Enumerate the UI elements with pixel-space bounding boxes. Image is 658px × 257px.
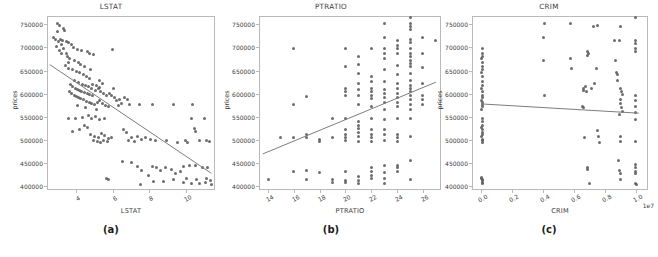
y-axis-tick-label: 450000 xyxy=(232,160,255,167)
y-axis-tick-label: 450000 xyxy=(445,160,468,167)
y-axis-tick-mark xyxy=(256,186,259,187)
x-axis-label: LSTAT xyxy=(47,207,215,215)
x-axis-tick-mark xyxy=(481,190,482,193)
x-axis-tick-mark xyxy=(320,190,321,193)
x-axis-tick-mark xyxy=(268,190,269,193)
subfigure-caption-a: (a) xyxy=(0,224,222,235)
y-axis-tick-mark xyxy=(256,24,259,25)
y-axis-tick-mark xyxy=(256,94,259,95)
panel-ptratio: PTRATIO prices PTRATIO 40000045000050000… xyxy=(222,0,440,215)
y-axis-tick-label: 400000 xyxy=(445,183,468,190)
x-axis-tick-mark xyxy=(371,190,372,193)
y-axis-tick-label: 600000 xyxy=(20,90,43,97)
x-axis-tick-label: 18 xyxy=(316,193,326,203)
y-axis-tick-mark xyxy=(469,71,472,72)
y-axis-tick-label: 500000 xyxy=(445,137,468,144)
y-axis-tick-mark xyxy=(469,186,472,187)
x-axis-tick-mark xyxy=(76,190,77,193)
y-axis-tick-label: 750000 xyxy=(232,21,255,28)
y-axis-tick-mark xyxy=(44,71,47,72)
trend-line xyxy=(472,16,648,190)
plot-area-ptratio: prices PTRATIO 4000004500005000005500006… xyxy=(259,16,441,190)
y-axis-tick-label: 650000 xyxy=(20,67,43,74)
y-axis-tick-label: 400000 xyxy=(232,183,255,190)
x-axis-tick-mark xyxy=(512,190,513,193)
subfigure-caption-c: (c) xyxy=(440,224,658,235)
x-axis-tick-mark xyxy=(345,190,346,193)
y-axis-tick-label: 550000 xyxy=(232,113,255,120)
x-axis-tick-mark xyxy=(605,190,606,193)
panel-lstat: LSTAT prices LSTAT 400000450000500000550… xyxy=(0,0,222,215)
y-axis-tick-mark xyxy=(469,163,472,164)
y-axis-tick-mark xyxy=(469,24,472,25)
y-axis-tick-label: 600000 xyxy=(232,90,255,97)
y-axis-tick-label: 400000 xyxy=(20,183,43,190)
y-axis-tick-label: 600000 xyxy=(445,90,468,97)
plot-area-crim: prices CRIM 1e7 400000450000500000550000… xyxy=(472,16,648,190)
x-axis-tick-label: 24 xyxy=(394,193,404,203)
y-axis-tick-label: 700000 xyxy=(445,44,468,51)
x-axis-tick-mark xyxy=(186,190,187,193)
x-axis-tick-label: 4 xyxy=(75,194,82,202)
x-axis-tick-label: 0.8 xyxy=(601,193,613,204)
y-axis-tick-mark xyxy=(256,71,259,72)
y-axis-tick-label: 750000 xyxy=(20,21,43,28)
y-axis-tick-label: 550000 xyxy=(20,113,43,120)
y-axis-tick-mark xyxy=(44,94,47,95)
x-axis-tick-label: 0.6 xyxy=(570,193,582,204)
x-axis-tick-label: 0.4 xyxy=(539,193,551,204)
x-axis-tick-label: 0.0 xyxy=(477,193,489,204)
y-axis-tick-mark xyxy=(44,117,47,118)
subfigure-caption-b: (b) xyxy=(222,224,440,235)
x-axis-tick-label: 6 xyxy=(111,194,118,202)
y-axis-tick-mark xyxy=(44,163,47,164)
x-axis-label: PTRATIO xyxy=(259,207,441,215)
x-axis-tick-mark xyxy=(543,190,544,193)
x-axis-tick-label: 0.2 xyxy=(508,193,520,204)
y-axis-tick-label: 500000 xyxy=(20,137,43,144)
x-axis-tick-label: 10 xyxy=(182,193,192,203)
figure-scatter-panels: LSTAT prices LSTAT 400000450000500000550… xyxy=(0,0,658,257)
x-axis-tick-label: 22 xyxy=(368,193,378,203)
panel-title: CRIM xyxy=(440,2,658,11)
y-axis-tick-mark xyxy=(469,47,472,48)
x-axis-offset-text: 1e7 xyxy=(643,202,654,209)
trend-line xyxy=(47,16,215,190)
y-axis-tick-mark xyxy=(469,140,472,141)
y-axis-tick-label: 500000 xyxy=(232,137,255,144)
y-axis-label: prices xyxy=(436,90,444,109)
x-axis-tick-label: 26 xyxy=(420,193,430,203)
y-axis-tick-mark xyxy=(44,47,47,48)
y-axis-tick-mark xyxy=(44,186,47,187)
panel-title: LSTAT xyxy=(0,2,222,11)
x-axis-tick-mark xyxy=(149,190,150,193)
x-axis-tick-mark xyxy=(574,190,575,193)
plot-area-lstat: prices LSTAT 400000450000500000550000600… xyxy=(47,16,215,190)
y-axis-tick-mark xyxy=(256,117,259,118)
x-axis-tick-label: 20 xyxy=(342,193,352,203)
y-axis-tick-mark xyxy=(44,24,47,25)
y-axis-tick-label: 700000 xyxy=(232,44,255,51)
x-axis-tick-mark xyxy=(294,190,295,193)
y-axis-tick-mark xyxy=(44,140,47,141)
x-axis-tick-mark xyxy=(397,190,398,193)
y-axis-tick-mark xyxy=(256,47,259,48)
y-axis-tick-label: 650000 xyxy=(232,67,255,74)
x-axis-tick-label: 8 xyxy=(148,194,155,202)
y-axis-tick-mark xyxy=(469,94,472,95)
y-axis-tick-mark xyxy=(256,163,259,164)
x-axis-tick-label: 16 xyxy=(290,193,300,203)
y-axis-tick-label: 700000 xyxy=(20,44,43,51)
y-axis-tick-label: 750000 xyxy=(445,21,468,28)
x-axis-tick-label: 14 xyxy=(265,193,275,203)
panel-crim: CRIM prices CRIM 1e7 4000004500005000005… xyxy=(440,0,658,215)
x-axis-tick-mark xyxy=(423,190,424,193)
y-axis-tick-label: 550000 xyxy=(445,113,468,120)
y-axis-label: prices xyxy=(223,90,231,109)
panel-title: PTRATIO xyxy=(222,2,440,11)
trend-line xyxy=(259,16,441,190)
x-axis-tick-label: 1.0 xyxy=(631,193,643,204)
y-axis-label: prices xyxy=(11,90,19,109)
x-axis-tick-mark xyxy=(636,190,637,193)
y-axis-tick-label: 650000 xyxy=(445,67,468,74)
